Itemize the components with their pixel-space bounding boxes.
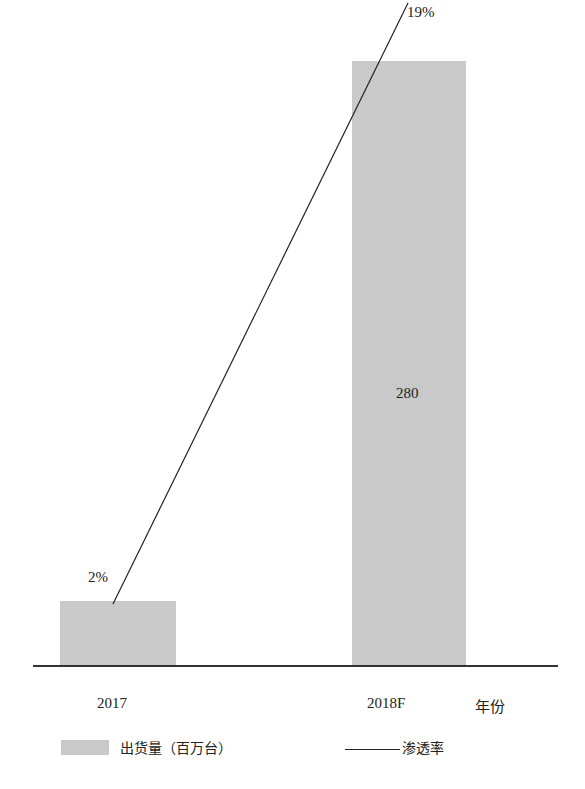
bar-2017	[60, 601, 176, 666]
bar-value-label-2018f: 280	[396, 385, 419, 402]
legend-bar-label: 出货量（百万台）	[120, 737, 232, 757]
line-label-2017: 2%	[88, 569, 108, 586]
chart-canvas	[0, 0, 585, 789]
legend-bar-swatch	[61, 740, 109, 755]
x-tick-2017: 2017	[97, 695, 127, 712]
bar-2018f	[352, 61, 466, 666]
line-label-2018f: 19%	[407, 4, 435, 21]
x-tick-2018f: 2018F	[367, 695, 405, 712]
legend-line-label: 渗透率	[402, 737, 444, 757]
x-axis-title: 年份	[475, 695, 505, 716]
legend-line-swatch	[345, 749, 400, 750]
